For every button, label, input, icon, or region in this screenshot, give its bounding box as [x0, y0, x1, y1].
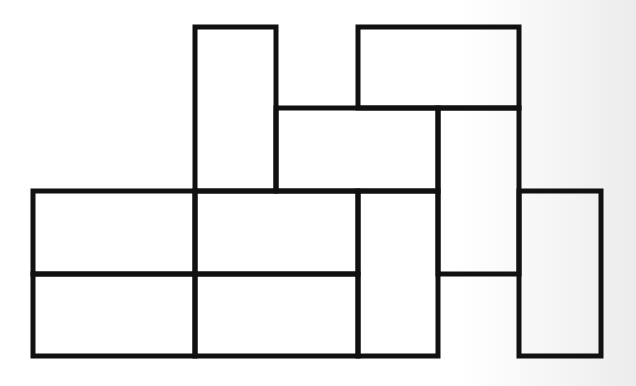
tile-vertical-9: [358, 191, 438, 356]
tile-vertical-4: [438, 108, 519, 274]
domino-tiling-diagram: [0, 0, 636, 386]
tile-horizontal-5: [33, 191, 195, 274]
tile-horizontal-6: [195, 191, 358, 274]
tile-vertical-1: [195, 27, 276, 191]
tile-horizontal-3: [276, 108, 438, 191]
tile-horizontal-8: [195, 274, 358, 356]
tile-horizontal-7: [33, 274, 195, 356]
tile-horizontal-2: [358, 27, 519, 108]
tile-vertical-10: [519, 191, 601, 356]
